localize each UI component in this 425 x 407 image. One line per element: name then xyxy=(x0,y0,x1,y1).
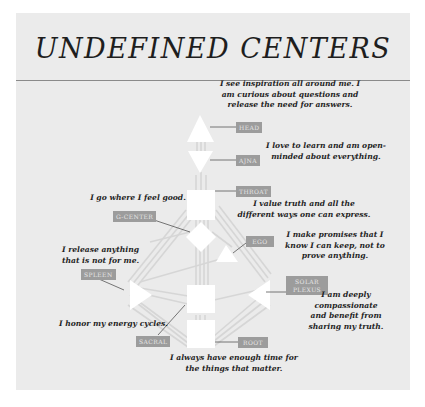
head-center xyxy=(187,115,214,142)
affirmation-ego-line: prove anything. xyxy=(282,251,388,262)
label-root: ROOT xyxy=(238,337,268,348)
root-center xyxy=(187,320,215,348)
affirmation-head-line: I see inspiration all around me. I xyxy=(210,79,370,90)
affirmation-solar-line: I am deeply xyxy=(306,290,386,301)
affirmation-g-center: I go where I feel good. xyxy=(78,193,198,204)
ego-center xyxy=(216,245,238,262)
sacral-center xyxy=(187,285,215,313)
affirmation-g-line: I go where I feel good. xyxy=(78,193,198,204)
affirmation-spleen-line: I release anything xyxy=(62,245,142,256)
affirmation-root-line: I always have enough time for xyxy=(168,353,300,364)
affirmation-spleen: I release anything that is not for me. xyxy=(62,245,142,266)
affirmation-sacral: I honor my energy cycles. xyxy=(59,319,179,330)
affirmation-solar-line: compassionate xyxy=(306,301,386,312)
label-g-center: G-CENTER xyxy=(113,211,156,222)
ajna-center xyxy=(188,151,213,173)
affirmation-ajna: I love to learn and am open- minded abou… xyxy=(262,141,390,162)
affirmation-head: I see inspiration all around me. I am cu… xyxy=(210,79,370,111)
affirmation-sacral-line: I honor my energy cycles. xyxy=(59,319,179,330)
affirmation-solar-line: sharing my truth. xyxy=(306,322,386,333)
affirmation-throat-line: I value truth and all the xyxy=(236,199,372,210)
affirmation-ego-line: know I can keep, not to xyxy=(282,241,388,252)
label-throat: THROAT xyxy=(236,186,271,197)
label-ajna: AJNA xyxy=(236,155,260,166)
affirmation-ajna-line: I love to learn and am open- xyxy=(262,141,390,152)
affirmation-solar-plexus: I am deeply compassionate and benefit fr… xyxy=(306,290,386,332)
affirmation-ego-line: I make promises that I xyxy=(282,230,388,241)
label-solar-line1: SOLAR xyxy=(289,278,325,286)
affirmation-solar-line: and benefit from xyxy=(306,311,386,322)
affirmation-head-line: release the need for answers. xyxy=(210,100,370,111)
affirmation-root: I always have enough time for the things… xyxy=(168,353,300,374)
label-ego: EGO xyxy=(246,236,274,247)
affirmation-ajna-line: minded about everything. xyxy=(262,152,390,163)
affirmation-throat-line: different ways one can express. xyxy=(236,210,372,221)
label-spleen: SPLEEN xyxy=(81,269,116,280)
affirmation-head-line: am curious about questions and xyxy=(210,90,370,101)
affirmation-throat: I value truth and all the different ways… xyxy=(236,199,372,220)
affirmation-root-line: the things that matter. xyxy=(168,364,300,375)
label-sacral: SACRAL xyxy=(136,336,170,347)
affirmation-spleen-line: that is not for me. xyxy=(62,256,142,267)
affirmation-ego: I make promises that I know I can keep, … xyxy=(282,230,388,262)
g-center xyxy=(186,222,216,252)
label-head: HEAD xyxy=(236,122,262,133)
